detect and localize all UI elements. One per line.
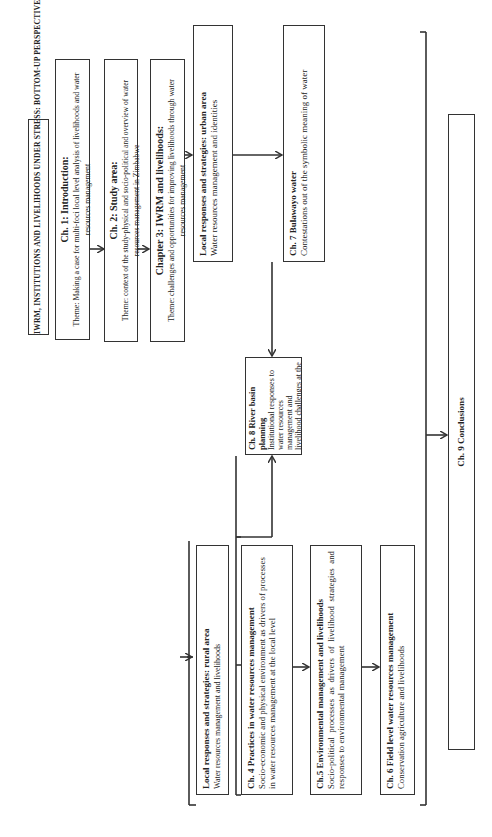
chapter-5-text: Socio-political processes as drivers of … [326, 551, 346, 789]
urban-area-box: Local responses and strategies: urban ar… [193, 25, 233, 262]
chapter-4-heading: Ch. 4 Practices in water resources manag… [245, 551, 257, 789]
chapter-9-box: Ch. 9 Conclusions [448, 114, 475, 750]
thesis-structure-diagram: IWRM, INSTITUTIONS AND LIVELIHOODS UNDER… [0, 0, 492, 837]
chapter-5-box: Ch.5 Environmental management and liveli… [310, 545, 362, 795]
chapter-1-theme: Theme: Making a case for multi-foci loca… [71, 65, 93, 334]
chapter-4-text: Socio-economic and physical environment … [257, 551, 277, 789]
chapter-9-heading: Ch. 9 Conclusions [449, 115, 473, 749]
chapter-8-text: Institutional responses to water resourc… [267, 362, 302, 450]
chapter-3-heading: Chapter 3: IWRM and livelihoods: [154, 65, 166, 336]
diagram-title: IWRM, INSTITUTIONS AND LIVELIHOODS UNDER… [29, 120, 47, 334]
rural-area-text: Water resources management and livelihoo… [212, 551, 223, 789]
rural-area-heading: Local responses and strategies: rural ar… [200, 551, 212, 789]
chapter-7-heading: Ch. 7 Bulawayo water [287, 31, 299, 256]
chapter-1-box: Ch. 1: Introduction: Theme: Making a cas… [55, 59, 90, 340]
chapter-2-theme: Theme: context of the study-physical and… [120, 65, 142, 336]
rural-area-box: Local responses and strategies: rural ar… [196, 545, 229, 795]
chapter-4-box: Ch. 4 Practices in water resources manag… [241, 545, 293, 795]
chapter-2-box: Ch. 2: Study area: Theme: context of the… [104, 59, 138, 342]
chapter-3-box: Chapter 3: IWRM and livelihoods: Theme: … [150, 59, 185, 342]
chapter-5-heading: Ch.5 Environmental management and liveli… [314, 551, 326, 789]
chapter-1-heading: Ch. 1: Introduction: [59, 65, 71, 334]
chapter-7-box: Ch. 7 Bulawayo water Contestations out o… [283, 25, 325, 262]
chapter-6-box: Ch. 6 Field level water resources manage… [380, 545, 415, 795]
chapter-6-text: Conservation agriculture and livelihoods [396, 551, 407, 789]
chapter-2-heading: Ch. 2: Study area: [108, 65, 120, 336]
chapter-8-heading: Ch. 8 River basin planning [248, 362, 267, 450]
chapter-3-theme: Theme: challenges and opportunities for … [166, 65, 188, 336]
urban-area-heading: Local responses and strategies: urban ar… [197, 31, 209, 256]
chapter-7-text: Contestations out of the symbolic meanin… [299, 31, 310, 256]
chapter-6-heading: Ch. 6 Field level water resources manage… [384, 551, 396, 789]
chapter-8-box: Ch. 8 River basin planning Institutional… [245, 357, 302, 455]
urban-area-text: Water resources management and identitie… [209, 31, 220, 256]
title-box: IWRM, INSTITUTIONS AND LIVELIHOODS UNDER… [28, 119, 49, 335]
